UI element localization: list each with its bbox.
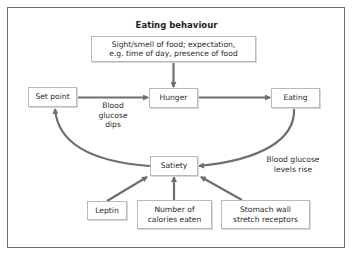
node-set-point-label: Set point [35,92,69,102]
node-stomach-line2: stretch receptors [233,215,298,225]
node-leptin-label: Leptin [95,206,119,216]
node-eating: Eating [271,88,320,108]
node-satiety-label: Satiety [161,161,188,171]
node-satiety: Satiety [150,156,198,176]
node-cues-line2: e.g. time of day, presence of food [109,49,238,59]
node-eating-label: Eating [283,93,307,103]
node-stomach-line1: Stomach wall [240,205,291,215]
node-calories: Number of calories eaten [137,200,212,229]
label-glucose-rise-line2: levels rise [258,165,328,175]
node-hunger: Hunger [149,88,198,108]
node-calories-line2: calories eaten [148,215,202,225]
node-calories-line1: Number of [154,205,194,215]
node-hunger-label: Hunger [160,93,188,103]
node-cues: Sight/smell of food; expectation, e.g. t… [91,36,256,62]
label-glucose-rise: Blood glucose levels rise [258,155,328,174]
node-leptin: Leptin [87,201,127,220]
label-glucose-rise-line1: Blood glucose [258,155,328,165]
node-cues-line1: Sight/smell of food; expectation, [112,40,236,50]
label-glucose-dips: Blood glucose dips [88,101,138,130]
label-glucose-dips-line2: glucose [88,111,138,121]
node-set-point: Set point [28,87,77,107]
label-glucose-dips-line3: dips [88,120,138,130]
arrow-leptin-to-satiety [107,177,147,201]
node-stomach: Stomach wall stretch receptors [221,200,310,229]
label-glucose-dips-line1: Blood [88,101,138,111]
arrow-stomach-to-satiety [201,177,242,200]
